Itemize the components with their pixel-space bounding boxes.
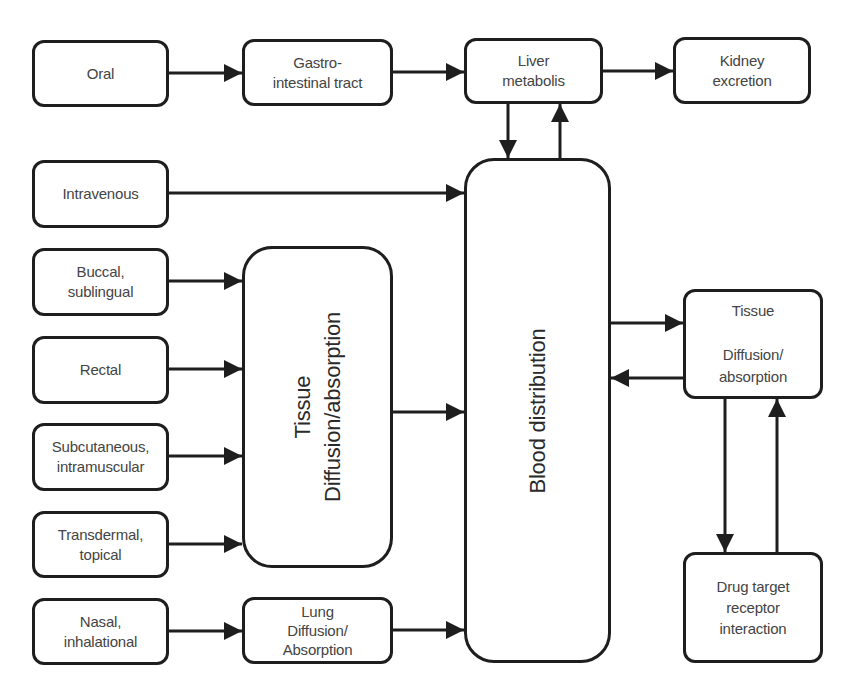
- node-drug-target: Drug target receptor interaction: [683, 552, 823, 663]
- node-label: Kidney excretion: [712, 51, 771, 91]
- node-buccal: Buccal, sublingual: [32, 248, 169, 316]
- node-label: Lung Diffusion/ Absorption: [283, 602, 353, 659]
- node-kidney: Kidney excretion: [673, 37, 811, 104]
- node-label: Tissue Diffusion/ absorption: [719, 300, 787, 388]
- node-label: Drug target receptor interaction: [717, 576, 790, 639]
- node-tissue-right: Tissue Diffusion/ absorption: [683, 289, 823, 399]
- node-tissue-absorption: Tissue Diffusion/absorption: [242, 246, 393, 568]
- node-label: Intravenous: [62, 184, 138, 204]
- node-subcutaneous: Subcutaneous, intramuscular: [32, 423, 169, 491]
- node-label: Gastro- intestinal tract: [273, 53, 362, 93]
- node-label: Transdermal, topical: [58, 525, 143, 565]
- node-transdermal: Transdermal, topical: [32, 511, 169, 578]
- node-oral: Oral: [32, 40, 169, 107]
- node-gi-tract: Gastro- intestinal tract: [242, 39, 393, 106]
- node-blood-distribution: Blood distribution: [464, 158, 611, 663]
- node-label: Subcutaneous, intramuscular: [52, 437, 149, 477]
- node-label: Oral: [87, 64, 115, 84]
- node-label: Tissue Diffusion/absorption: [288, 207, 348, 607]
- node-nasal: Nasal, inhalational: [32, 598, 169, 665]
- node-lung: Lung Diffusion/ Absorption: [242, 597, 393, 664]
- node-label: Rectal: [80, 360, 121, 380]
- node-label: Nasal, inhalational: [64, 612, 138, 652]
- node-intravenous: Intravenous: [32, 160, 169, 228]
- node-rectal: Rectal: [32, 336, 169, 404]
- node-label: Liver metabolis: [502, 51, 564, 91]
- node-label: Blood distribution: [523, 211, 553, 611]
- node-liver: Liver metabolis: [464, 38, 603, 104]
- node-label: Buccal, sublingual: [68, 262, 134, 302]
